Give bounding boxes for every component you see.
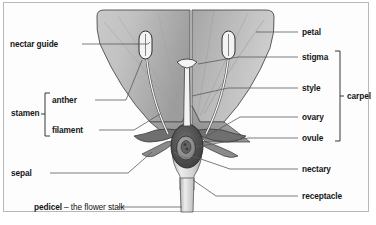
- style: [184, 66, 191, 126]
- label-pedicel: pedicel – the flower stalk: [34, 203, 125, 212]
- label-sepal: sepal: [11, 169, 32, 178]
- petal-right: [192, 10, 274, 142]
- label-pedicel-suffix: – the flower stalk: [62, 202, 125, 212]
- label-anther: anther: [52, 96, 77, 105]
- label-stamen: stamen: [11, 109, 39, 118]
- leader-sepal-2: [128, 152, 152, 173]
- carpel-bracket: [335, 51, 344, 141]
- label-stigma: stigma: [302, 53, 328, 62]
- stamen-bracket: [41, 93, 50, 136]
- petal-left: [97, 10, 190, 140]
- label-carpel: carpel: [347, 92, 371, 101]
- anther-left: [139, 31, 152, 59]
- flower-diagram-figure: nectar guide anther stamen filament sepa…: [0, 0, 376, 225]
- label-filament: filament: [52, 126, 83, 135]
- label-petal: petal: [302, 28, 321, 37]
- label-ovary: ovary: [302, 113, 324, 122]
- label-pedicel-term: pedicel: [34, 202, 62, 212]
- anther-right: [222, 31, 235, 59]
- label-receptacle: receptacle: [302, 192, 342, 201]
- label-nectary: nectary: [302, 165, 331, 174]
- leader-receptacle-2: [193, 180, 216, 196]
- label-ovule: ovule: [302, 134, 323, 143]
- label-style: style: [302, 84, 320, 93]
- pedicel: [180, 178, 194, 212]
- label-nectar-guide: nectar guide: [10, 40, 58, 49]
